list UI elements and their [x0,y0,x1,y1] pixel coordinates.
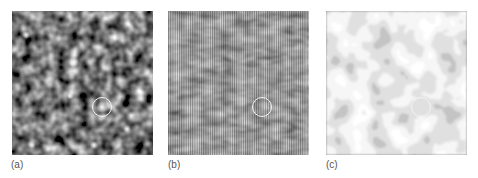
circle-marker-a [92,97,112,117]
panel-c-label: (c) [326,159,338,170]
panel-a-label: (a) [11,159,23,170]
circle-marker-c [411,97,431,117]
panel-b-label: (b) [168,159,180,170]
panel-b-fringe-image [168,11,309,155]
panel-c-phase-image [326,11,467,155]
panel-a-speckle-image [12,11,153,155]
circle-marker-b [252,97,272,117]
